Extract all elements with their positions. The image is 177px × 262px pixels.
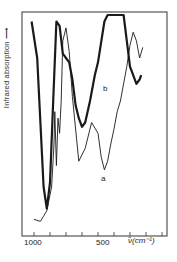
ir-spectrum-chart xyxy=(0,0,177,262)
y-axis-label: Infrared absorption ⟶ xyxy=(2,8,14,128)
plot-frame xyxy=(22,12,167,236)
x-tick-500: 500 xyxy=(96,238,109,247)
x-axis-unit-label: ν̃(cm⁻¹) xyxy=(128,236,155,245)
curve-label-b: b xyxy=(103,84,107,93)
x-tick-1000: 1000 xyxy=(24,238,42,247)
curve-b xyxy=(32,15,142,209)
curve-label-a: a xyxy=(101,174,105,183)
curve-a xyxy=(34,28,143,222)
